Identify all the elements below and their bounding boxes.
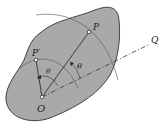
label-Q: Q [151,35,159,45]
point-P [87,30,91,34]
label-P-prime: P′ [31,48,40,58]
point-P-prime [34,58,38,62]
rigid-body-rotation-diagram: O P P′ Q θ θ′ [0,0,163,131]
label-theta-prime: θ′ [46,68,52,76]
label-O: O [37,103,45,114]
label-theta: θ [77,62,82,71]
point-O [40,95,44,99]
rigid-body-shape [6,7,120,120]
label-P: P [92,22,100,32]
